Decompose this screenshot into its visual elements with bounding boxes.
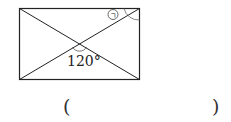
angle-label-120: 120° xyxy=(67,53,101,69)
marked-angle-symbol: ㄱ xyxy=(110,12,116,20)
angle-arc-120 xyxy=(73,47,87,51)
answer-close-paren: ) xyxy=(212,95,219,117)
rectangle-diagonals-figure: ㄱ 120° xyxy=(0,0,231,122)
answer-open-paren: ( xyxy=(63,95,70,117)
